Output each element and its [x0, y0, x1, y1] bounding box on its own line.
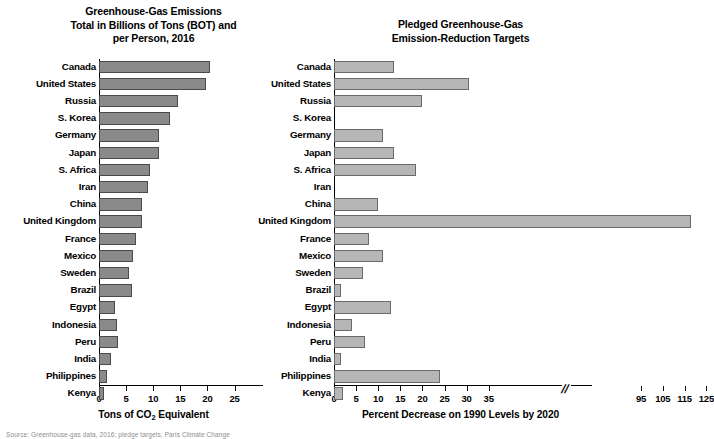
bar-row[interactable]: S. Africa: [334, 162, 591, 179]
bar[interactable]: [334, 387, 343, 400]
category-label: Russia: [65, 93, 96, 109]
bar-row[interactable]: S. Korea: [99, 110, 262, 127]
bar-row[interactable]: Sweden: [99, 265, 262, 282]
bar[interactable]: [99, 336, 118, 349]
bar[interactable]: [99, 301, 115, 314]
bar-row[interactable]: Indonesia: [334, 317, 591, 334]
category-label: Kenya: [68, 385, 96, 401]
category-label: China: [70, 196, 96, 212]
bar[interactable]: [334, 284, 341, 297]
x-axis-title-right: Percent Decrease on 1990 Levels by 2020: [307, 409, 614, 420]
bar-row[interactable]: Philippines: [99, 368, 262, 385]
bar-row[interactable]: Kenya: [334, 385, 591, 402]
bar-row[interactable]: Brazil: [99, 282, 262, 299]
bar-row[interactable]: S. Korea: [334, 110, 591, 127]
bar[interactable]: [334, 129, 383, 142]
bar[interactable]: [334, 267, 363, 280]
bar-row[interactable]: China: [334, 196, 591, 213]
bar[interactable]: [99, 78, 206, 91]
bar[interactable]: [334, 353, 341, 366]
bar[interactable]: [99, 284, 132, 297]
bar-row[interactable]: Peru: [334, 334, 591, 351]
category-label: Brazil: [306, 282, 331, 298]
bar[interactable]: [99, 198, 142, 211]
bar-row[interactable]: United States: [99, 76, 262, 93]
bar-row[interactable]: United States: [334, 76, 591, 93]
bar-row[interactable]: Canada: [99, 59, 262, 76]
bar-row[interactable]: China: [99, 196, 262, 213]
bar[interactable]: [334, 198, 378, 211]
bar-row[interactable]: S. Africa: [99, 162, 262, 179]
bar-row[interactable]: Sweden: [334, 265, 591, 282]
bar[interactable]: [99, 233, 136, 246]
bar-row[interactable]: Kenya: [99, 385, 262, 402]
bar[interactable]: [334, 233, 369, 246]
bar-row[interactable]: Japan: [334, 145, 591, 162]
plot-area-left: 0510152025CanadaUnited StatesRussiaS. Ko…: [99, 59, 262, 386]
bar[interactable]: [99, 95, 178, 108]
bar[interactable]: [334, 250, 383, 263]
bar-row[interactable]: Egypt: [99, 299, 262, 316]
category-label: S. Korea: [293, 110, 331, 126]
chart-title-left-line1: Greenhouse-Gas Emissions: [0, 5, 307, 19]
bar[interactable]: [334, 370, 440, 383]
bar[interactable]: [334, 336, 365, 349]
bar[interactable]: [99, 387, 104, 400]
bar[interactable]: [334, 301, 391, 314]
bar-row[interactable]: Egypt: [334, 299, 591, 316]
bar[interactable]: [99, 353, 111, 366]
category-label: Sweden: [295, 265, 331, 281]
bar[interactable]: [334, 147, 394, 160]
bar[interactable]: [99, 147, 159, 160]
bar-row[interactable]: Indonesia: [99, 317, 262, 334]
bar[interactable]: [99, 129, 159, 142]
category-label: Germany: [290, 127, 331, 143]
bar-row[interactable]: India: [99, 351, 262, 368]
bar-row[interactable]: Mexico: [99, 248, 262, 265]
bar-row[interactable]: Philippines: [334, 368, 591, 385]
category-label: Mexico: [64, 248, 96, 264]
bar-row[interactable]: Canada: [334, 59, 591, 76]
bar[interactable]: [334, 61, 394, 74]
bar-row[interactable]: Russia: [99, 93, 262, 110]
bar[interactable]: [99, 164, 150, 177]
category-label: India: [309, 351, 331, 367]
bar[interactable]: [99, 267, 129, 280]
x-axis-tick-label: 95: [636, 393, 646, 404]
bar-row[interactable]: Germany: [334, 127, 591, 144]
bar-row[interactable]: Russia: [334, 93, 591, 110]
bar[interactable]: [99, 250, 133, 263]
bar[interactable]: [99, 181, 148, 194]
bar-row[interactable]: Germany: [99, 127, 262, 144]
bar-row[interactable]: Brazil: [334, 282, 591, 299]
bar-row[interactable]: Iran: [99, 179, 262, 196]
category-label: Canada: [297, 59, 331, 75]
bar[interactable]: [334, 215, 691, 228]
bar[interactable]: [334, 95, 422, 108]
bar[interactable]: [99, 61, 210, 74]
bar-row[interactable]: Japan: [99, 145, 262, 162]
bar-row[interactable]: Mexico: [334, 248, 591, 265]
category-label: United States: [36, 76, 96, 92]
bar[interactable]: [334, 78, 469, 91]
category-label: Egypt: [70, 299, 96, 315]
bar-row[interactable]: Iran: [334, 179, 591, 196]
bar[interactable]: [99, 319, 117, 332]
bar[interactable]: [99, 370, 107, 383]
bar[interactable]: [334, 164, 416, 177]
source-note: Source: Greenhouse-gas data, 2016; pledg…: [6, 431, 230, 438]
bar[interactable]: [99, 112, 170, 125]
bar-row[interactable]: India: [334, 351, 591, 368]
bar-row[interactable]: France: [99, 231, 262, 248]
bar-row[interactable]: France: [334, 231, 591, 248]
x-axis-tick-label: 115: [677, 393, 692, 404]
chart-title-left-line2: Total in Billions of Tons (BOT) and: [0, 19, 307, 33]
bar-row[interactable]: United Kingdom: [99, 213, 262, 230]
category-label: Kenya: [303, 385, 331, 401]
bar-row[interactable]: Peru: [99, 334, 262, 351]
x-axis-tick: [641, 386, 642, 391]
bar[interactable]: [99, 215, 142, 228]
category-label: Indonesia: [287, 317, 331, 333]
bar-row[interactable]: United Kingdom: [334, 213, 591, 230]
bar[interactable]: [334, 319, 352, 332]
